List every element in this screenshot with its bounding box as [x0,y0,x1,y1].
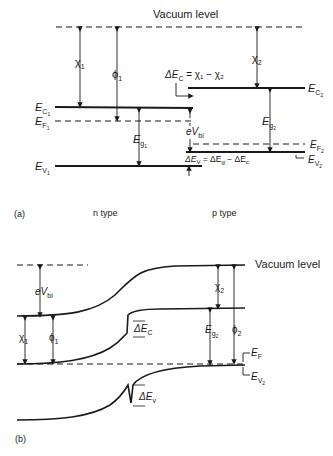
n-type-label: n type [93,208,118,218]
ec2-label: EC2 [308,82,323,98]
panel-a: Vacuum level χ [14,8,324,219]
phi1-label-b: ϕ1 [49,332,59,345]
chi1-label-b: χ1 [19,332,28,345]
phi1-label: ϕ1 [112,68,122,82]
ev2-label-b: EV2 [251,371,265,386]
ef1-label: EF1 [35,115,50,131]
delta-ec-bent-arrow [176,83,191,96]
eg2-label-b: Eg2 [205,324,219,339]
phi2-label-b: ϕ2 [232,324,242,337]
panel-b: Vacuum level eVbi χ1 ϕ1 χ2 ϕ2 Eg2 EF EV2… [15,258,320,444]
panel-a-tag: (a) [14,209,25,219]
ev2-pointer [296,155,304,158]
ec1-line [55,107,193,108]
chi2-label-b: χ2 [215,281,224,294]
evbi-label-b: eVbi [35,286,53,299]
p-type-label: p type [212,208,237,218]
delta-ev-equation: ΔEV = ΔEg − ΔEc [184,154,249,165]
evbi-label: eVbi [186,126,204,139]
ev2-label: EV2 [308,154,322,169]
ef-label-b: EF [251,347,262,360]
ev1-label: EV1 [35,160,50,176]
vacuum-level-label-a: Vacuum level [153,8,218,20]
valence-band-curve [17,365,245,420]
ef-pointer-b [243,353,250,362]
panel-b-tag: (b) [15,434,26,444]
vacuum-level-label-b: Vacuum level [255,258,320,270]
chi1-label: χ1 [75,56,85,70]
ev2-pointer-b [243,367,250,375]
delta-ec-label-b: ΔEC [133,323,152,336]
eg2-label: Eg2 [262,115,276,131]
delta-ev-label-b: ΔEv [138,391,156,404]
delta-ec-equation: ΔEC = χ₁ − χ₂ [164,69,224,82]
chi2-label: χ2 [252,52,262,66]
ef2-label: EF2 [310,139,324,154]
eg1-label: Eg1 [133,133,147,149]
heterojunction-band-diagram: Vacuum level χ [0,0,333,456]
